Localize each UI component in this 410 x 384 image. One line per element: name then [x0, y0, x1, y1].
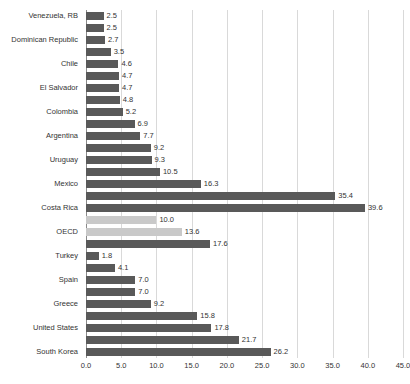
x-tick-label: 5.0 [116, 362, 126, 370]
bar-row: 17.6 [86, 240, 403, 249]
bar-row: 2.7 [86, 36, 403, 45]
bar-value-label: 6.9 [138, 120, 148, 128]
bar [86, 264, 115, 273]
bar [86, 240, 210, 249]
bar-row: 35.4 [86, 192, 403, 201]
bar [86, 12, 104, 21]
bar-value-label: 13.6 [185, 228, 200, 236]
bar [86, 180, 201, 189]
bar-row: 15.8 [86, 312, 403, 321]
bar [86, 120, 135, 129]
category-label: Dominican Republic [11, 36, 78, 44]
bar [86, 204, 365, 213]
bar [86, 192, 335, 201]
bar-value-label: 2.5 [107, 12, 117, 20]
x-tick-label: 30.0 [290, 362, 305, 370]
bar [86, 24, 104, 33]
bar-value-label: 16.3 [204, 180, 219, 188]
bar-value-label: 39.6 [368, 204, 383, 212]
bar-value-label: 10.0 [159, 216, 174, 224]
bar-row: 7.0 [86, 276, 403, 285]
bar-row: 10.5 [86, 168, 403, 177]
bar [86, 252, 99, 261]
bar-row: 7.0 [86, 288, 403, 297]
bar [86, 84, 119, 93]
bar-row: 3.5 [86, 48, 403, 57]
bar [86, 324, 211, 333]
bar-row: 9.2 [86, 144, 403, 153]
bar-row: 4.1 [86, 264, 403, 273]
category-label: Greece [53, 300, 78, 308]
category-label: Venezuela, RB [28, 12, 78, 20]
bar-row: 39.6 [86, 204, 403, 213]
bar [86, 276, 135, 285]
bar [86, 36, 105, 45]
bar-value-label: 2.7 [108, 36, 118, 44]
category-label: Costa Rica [41, 204, 78, 212]
plot-area: 2.52.52.73.54.64.74.74.85.26.97.79.29.31… [86, 10, 403, 358]
bar [86, 156, 152, 165]
x-tick-label: 20.0 [220, 362, 235, 370]
bar [86, 132, 140, 141]
bar-row: 9.2 [86, 300, 403, 309]
bar [86, 288, 135, 297]
bar-value-label: 2.5 [107, 24, 117, 32]
bar [86, 108, 123, 117]
category-label: El Salvador [40, 84, 78, 92]
bar-value-label: 4.7 [122, 84, 132, 92]
bar-value-label: 4.6 [121, 60, 131, 68]
bar-value-label: 9.2 [154, 144, 164, 152]
bar-value-label: 9.2 [154, 300, 164, 308]
bar-value-label: 7.7 [143, 132, 153, 140]
category-label: South Korea [36, 348, 78, 356]
category-label: United States [33, 324, 78, 332]
x-axis-tick-labels: 0.05.010.015.020.025.030.035.040.045.0 [86, 362, 403, 378]
bar [86, 48, 111, 57]
x-tick-label: 45.0 [396, 362, 410, 370]
bar-row: 4.7 [86, 72, 403, 81]
x-tick-label: 0.0 [81, 362, 91, 370]
bar-row: 1.8 [86, 252, 403, 261]
x-tick-label: 25.0 [255, 362, 270, 370]
bar-row: 26.2 [86, 348, 403, 357]
x-tick-label: 40.0 [360, 362, 375, 370]
bar-value-label: 1.8 [102, 252, 112, 260]
bar [86, 348, 271, 357]
category-label: Uruguay [50, 156, 78, 164]
category-label: Turkey [55, 252, 78, 260]
bar-row: 6.9 [86, 120, 403, 129]
bar-value-label: 4.1 [118, 264, 128, 272]
bar-value-label: 15.8 [200, 312, 215, 320]
bar [86, 168, 160, 177]
bar-row: 2.5 [86, 24, 403, 33]
bar-value-label: 21.7 [242, 336, 257, 344]
bar [86, 60, 118, 69]
category-label: Colombia [46, 108, 78, 116]
x-tick-label: 35.0 [325, 362, 340, 370]
bar-row: 10.0 [86, 216, 403, 225]
bar-row: 7.7 [86, 132, 403, 141]
bar [86, 216, 156, 225]
bar-value-label: 35.4 [338, 192, 353, 200]
bar [86, 96, 120, 105]
bar-row: 4.8 [86, 96, 403, 105]
category-label: Mexico [54, 180, 78, 188]
bar-value-label: 17.6 [213, 240, 228, 248]
category-label: Chile [61, 60, 78, 68]
bar-value-label: 4.7 [122, 72, 132, 80]
bar-row: 17.8 [86, 324, 403, 333]
gridline [403, 10, 404, 358]
bar-row: 4.7 [86, 84, 403, 93]
category-axis-labels: Venezuela, RBDominican RepublicChileEl S… [0, 10, 82, 358]
bar-row: 13.6 [86, 228, 403, 237]
bar-value-label: 9.3 [155, 156, 165, 164]
bar-row: 9.3 [86, 156, 403, 165]
category-label: Argentina [46, 132, 78, 140]
bar-value-label: 10.5 [163, 168, 178, 176]
category-label: Spain [59, 276, 78, 284]
bar-series: 2.52.52.73.54.64.74.74.85.26.97.79.29.31… [86, 10, 403, 358]
bar-value-label: 3.5 [114, 48, 124, 56]
category-label: OECD [56, 228, 78, 236]
bar [86, 312, 197, 321]
